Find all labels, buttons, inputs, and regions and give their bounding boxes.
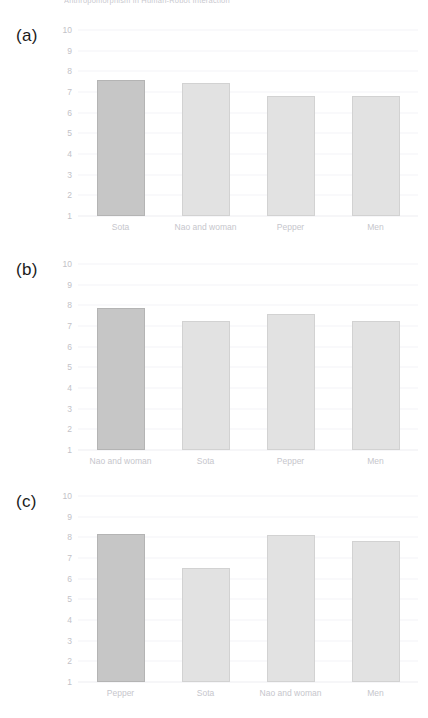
y-axis-tick-label: 2 [58, 657, 72, 666]
y-axis-tick-label: 5 [58, 363, 72, 372]
plot-area-b: 10987654321 Nao and womanSotaPepperMen [78, 264, 418, 450]
y-axis-tick-label: 8 [58, 301, 72, 310]
y-axis-tick-label: 5 [58, 129, 72, 138]
y-axis-tick-label: 3 [58, 170, 72, 179]
x-axis-category-label: Men [367, 689, 384, 698]
x-axis-category-label: Men [367, 457, 384, 466]
panel-label-b: (b) [16, 260, 38, 280]
plot-area-c: 10987654321 PepperSotaNao and womanMen [78, 496, 418, 682]
bar[interactable] [97, 80, 145, 216]
y-axis-tick-label: 2 [58, 425, 72, 434]
x-axis-category-label: Nao and woman [260, 689, 322, 698]
bar-slot: Nao and woman [163, 30, 248, 216]
bar-slot: Men [333, 496, 418, 682]
y-axis-tick-label: 8 [58, 67, 72, 76]
bar-slot: Sota [163, 496, 248, 682]
y-axis-tick-label: 6 [58, 574, 72, 583]
y-axis-tick-label: 9 [58, 512, 72, 521]
y-axis-tick-label: 10 [58, 260, 72, 269]
panel-label-a: (a) [16, 26, 38, 46]
bar-group-b: Nao and womanSotaPepperMen [78, 264, 418, 450]
chart-panel-c: (c) 10987654321 PepperSotaNao and womanM… [0, 488, 428, 710]
y-axis-tick-label: 4 [58, 616, 72, 625]
bar[interactable] [182, 321, 230, 450]
y-axis-tick-label: 1 [58, 678, 72, 687]
y-axis-tick-label: 3 [58, 636, 72, 645]
y-axis-tick-label: 1 [58, 446, 72, 455]
x-axis-category-label: Men [367, 223, 384, 232]
bar[interactable] [97, 534, 145, 682]
y-axis-tick-label: 10 [58, 492, 72, 501]
bar[interactable] [267, 535, 315, 682]
chart-panel-b: (b) 10987654321 Nao and womanSotaPepperM… [0, 256, 428, 478]
panel-label-c: (c) [16, 492, 37, 512]
x-axis-category-label: Sota [112, 223, 130, 232]
x-axis-category-label: Nao and woman [90, 457, 152, 466]
y-axis-tick-label: 1 [58, 212, 72, 221]
bar[interactable] [182, 568, 230, 682]
bar-slot: Nao and woman [78, 264, 163, 450]
x-axis-category-label: Pepper [277, 223, 304, 232]
bar-slot: Nao and woman [248, 496, 333, 682]
bar[interactable] [352, 321, 400, 450]
bar[interactable] [267, 96, 315, 216]
y-axis-tick-label: 6 [58, 108, 72, 117]
chart-panel-a: (a) 10987654321 SotaNao and womanPepperM… [0, 22, 428, 244]
running-head: Anthropomorphism in Human-Robot Interact… [64, 0, 364, 5]
bar[interactable] [182, 83, 230, 216]
y-axis-tick-label: 5 [58, 595, 72, 604]
y-axis-tick-label: 4 [58, 150, 72, 159]
y-axis-tick-label: 7 [58, 554, 72, 563]
bar-slot: Pepper [248, 264, 333, 450]
bar[interactable] [352, 541, 400, 682]
bar[interactable] [267, 314, 315, 450]
bar-group-a: SotaNao and womanPepperMen [78, 30, 418, 216]
y-axis-tick-label: 4 [58, 384, 72, 393]
y-axis-tick-label: 9 [58, 280, 72, 289]
x-axis-category-label: Pepper [107, 689, 134, 698]
y-axis-tick-label: 9 [58, 46, 72, 55]
bar-group-c: PepperSotaNao and womanMen [78, 496, 418, 682]
bar[interactable] [352, 96, 400, 216]
bar-slot: Men [333, 264, 418, 450]
x-axis-category-label: Sota [197, 689, 215, 698]
x-axis-category-label: Sota [197, 457, 215, 466]
bar-slot: Men [333, 30, 418, 216]
plot-area-a: 10987654321 SotaNao and womanPepperMen [78, 30, 418, 216]
bar-slot: Sota [78, 30, 163, 216]
bar[interactable] [97, 308, 145, 450]
y-axis-tick-label: 6 [58, 342, 72, 351]
bar-slot: Sota [163, 264, 248, 450]
y-axis-tick-label: 7 [58, 322, 72, 331]
y-axis-tick-label: 7 [58, 88, 72, 97]
x-axis-category-label: Pepper [277, 457, 304, 466]
y-axis-tick-label: 2 [58, 191, 72, 200]
bar-slot: Pepper [78, 496, 163, 682]
y-axis-tick-label: 8 [58, 533, 72, 542]
y-axis-tick-label: 10 [58, 26, 72, 35]
y-axis-tick-label: 3 [58, 404, 72, 413]
x-axis-category-label: Nao and woman [175, 223, 237, 232]
bar-slot: Pepper [248, 30, 333, 216]
